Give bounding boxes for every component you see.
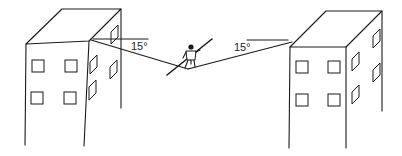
window xyxy=(296,94,308,106)
tightrope-walker-with-pole xyxy=(167,39,212,75)
window xyxy=(31,92,43,104)
side-window xyxy=(110,60,117,79)
window xyxy=(32,60,44,72)
side-window xyxy=(111,25,118,44)
side-window xyxy=(352,52,359,71)
window xyxy=(328,61,340,73)
window xyxy=(65,60,77,72)
side-window xyxy=(352,85,359,104)
side-window xyxy=(373,29,380,48)
tightrope-diagram: 15° 15° xyxy=(0,0,402,156)
building-left xyxy=(25,9,121,146)
side-window xyxy=(90,55,97,74)
window xyxy=(296,61,308,73)
building-right xyxy=(289,11,382,148)
right-angle-label: 15° xyxy=(234,41,251,53)
left-angle-label: 15° xyxy=(131,40,148,52)
window xyxy=(328,94,340,106)
window xyxy=(64,92,76,104)
side-window xyxy=(373,63,380,82)
side-window xyxy=(89,80,96,100)
